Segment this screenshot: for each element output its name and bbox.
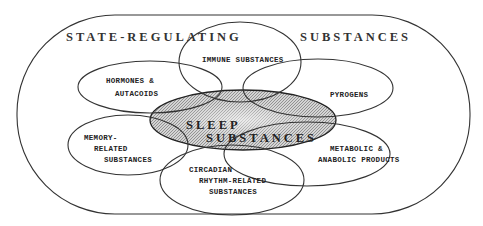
metabolic-label-line2: ANABOLIC PRODUCTS — [318, 156, 400, 164]
sleep-label-line2: SUBSTANCES — [206, 131, 317, 145]
circadian-label-line2: RHYTHM-RELATED — [199, 177, 266, 185]
hormones-label-line1: HORMONES & — [106, 77, 154, 85]
pyrogens-label: PYROGENS — [330, 91, 369, 99]
memory-label-line2: RELATED — [94, 145, 128, 153]
sleep-label-line1: SLEEP — [186, 118, 241, 132]
memory-label-line1: MEMORY- — [84, 134, 118, 142]
venn-diagram: STATE-REGULATING SUBSTANCES IMMUNE SUBST… — [0, 0, 483, 226]
hormones-label-line2: AUTACOIDS — [115, 90, 158, 98]
circadian-label-line3: SUBSTANCES — [209, 188, 257, 196]
circadian-label-line1: CIRCADIAN — [189, 166, 232, 174]
outer-title-right: SUBSTANCES — [300, 30, 411, 44]
memory-ellipse — [68, 115, 188, 175]
metabolic-label-line1: METABOLIC & — [330, 145, 383, 153]
hormones-ellipse — [78, 61, 222, 113]
immune-label: IMMUNE SUBSTANCES — [202, 56, 284, 64]
memory-label-line3: SUBSTANCES — [104, 156, 152, 164]
outer-title-left: STATE-REGULATING — [66, 30, 242, 44]
